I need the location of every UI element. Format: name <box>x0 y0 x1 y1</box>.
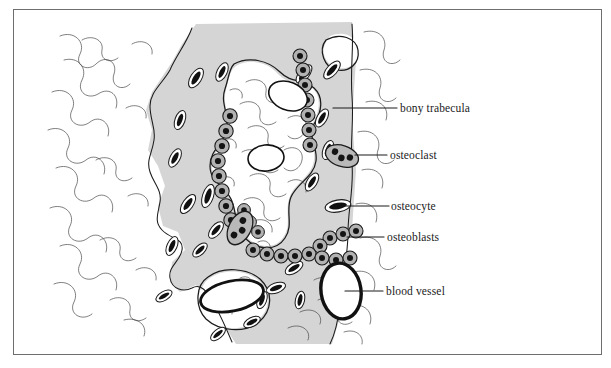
osteocyte <box>163 235 180 257</box>
osteoblast <box>302 247 316 261</box>
osteoblast <box>219 199 233 213</box>
osteoblast <box>349 224 363 238</box>
osteoblast <box>211 154 225 168</box>
osteoblast <box>223 109 237 123</box>
osteocyte <box>154 288 174 305</box>
label-osteoclast: osteoclast <box>390 149 437 161</box>
label-blood-vessel: blood vessel <box>386 285 445 297</box>
osteoblast <box>215 184 229 198</box>
osteoblast <box>274 249 288 263</box>
histology-illustration <box>0 0 611 368</box>
label-bony-trabecula: bony trabecula <box>400 102 470 114</box>
osteoblast <box>212 169 226 183</box>
osteoblast <box>296 63 310 77</box>
osteoblast <box>260 247 274 261</box>
osteoblast <box>302 123 316 137</box>
osteoblast <box>303 138 317 152</box>
osteoblast <box>252 226 265 239</box>
label-osteocyte: osteocyte <box>391 200 436 212</box>
osteoblast <box>293 49 307 63</box>
label-osteoblasts: osteoblasts <box>387 231 439 243</box>
osteocyte <box>208 325 227 343</box>
osteoblast <box>215 139 229 153</box>
figure-root: bony trabecula osteoclast osteocyte oste… <box>0 0 611 368</box>
osteoblast <box>246 243 260 257</box>
osteoblast <box>288 249 302 263</box>
osteoblast <box>301 108 315 122</box>
osteoblast <box>336 227 350 241</box>
osteoblast <box>219 124 233 138</box>
osteoblast <box>315 251 329 265</box>
